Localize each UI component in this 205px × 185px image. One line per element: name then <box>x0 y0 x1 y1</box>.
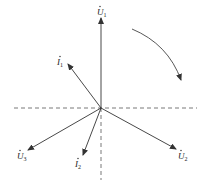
phasor-u3-arrow <box>28 108 101 150</box>
phasor-u2-label: U2 <box>178 151 188 162</box>
phasor-group: U1I1U3I2U2 <box>17 6 188 170</box>
phasor-dot-accent-icon <box>59 56 60 57</box>
phasor-u2-arrow <box>101 108 176 149</box>
phasor-dot-accent-icon <box>180 150 181 151</box>
phasor-dot-accent-icon <box>19 150 20 151</box>
phasor-diagram: U1I1U3I2U2 <box>0 0 205 185</box>
phasor-dot-accent-icon <box>99 6 100 7</box>
phasor-i2-arrow <box>83 108 101 155</box>
phasor-i1-arrow <box>68 64 101 108</box>
phasor-u1-label: U1 <box>97 7 107 18</box>
phasor-i1-label: I1 <box>56 57 63 68</box>
phasor-i2-label: I2 <box>74 159 81 170</box>
reference-axes <box>14 108 197 180</box>
phasor-dot-accent-icon <box>77 158 78 159</box>
clockwise-rotation-arrow-icon <box>132 29 181 80</box>
phasor-u3-label: U3 <box>17 151 27 162</box>
